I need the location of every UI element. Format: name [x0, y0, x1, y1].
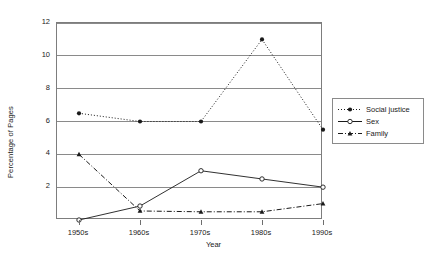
x-tick-label: 1970s: [172, 228, 228, 237]
x-tick-label: 1980s: [233, 228, 289, 237]
x-tick: [79, 220, 80, 225]
y-tick-label: 12: [24, 17, 50, 26]
legend-item: Social justice: [336, 103, 420, 115]
series-social-justice: [77, 37, 325, 131]
legend-label: Social justice: [364, 105, 410, 114]
data-point: [199, 169, 203, 173]
legend-sample-open-circle: [336, 116, 364, 127]
plot-area: [56, 22, 322, 219]
x-axis-title: Year: [0, 240, 427, 249]
legend-label: Family: [364, 129, 388, 138]
y-tick-label: 2: [24, 181, 50, 190]
y-tick-label: 4: [24, 148, 50, 157]
data-point: [321, 128, 325, 132]
x-tick-label: 1950s: [50, 228, 106, 237]
legend-item: Family: [336, 127, 420, 139]
series-line: [79, 39, 323, 129]
series-layer: [57, 23, 323, 220]
legend-item: Sex: [336, 115, 420, 127]
x-tick-label: 1990s: [294, 228, 350, 237]
data-point: [321, 201, 326, 206]
x-tick: [201, 220, 202, 225]
series-line: [79, 154, 323, 211]
data-point: [260, 177, 264, 181]
y-axis-title: Percentage of Pages: [6, 82, 15, 202]
chart-legend: Social justiceSexFamily: [332, 98, 424, 144]
legend-sample-filled-triangle: [336, 128, 364, 139]
series-sex: [77, 169, 325, 223]
data-point: [138, 119, 142, 123]
legend-label: Sex: [364, 117, 379, 126]
x-tick: [140, 220, 141, 225]
x-tick: [262, 220, 263, 225]
chart-figure: Percentage of Pages 24681012 1950s1960s1…: [0, 0, 427, 261]
x-tick-label: 1960s: [111, 228, 167, 237]
data-point: [138, 204, 142, 208]
data-point: [77, 111, 81, 115]
y-tick-label: 8: [24, 83, 50, 92]
data-point: [199, 119, 203, 123]
y-tick-label: 10: [24, 50, 50, 59]
data-point: [260, 37, 264, 41]
legend-sample-filled-circle: [336, 104, 364, 115]
x-tick: [323, 220, 324, 225]
data-point: [321, 185, 325, 189]
y-tick-label: 6: [24, 116, 50, 125]
data-point: [77, 152, 82, 157]
